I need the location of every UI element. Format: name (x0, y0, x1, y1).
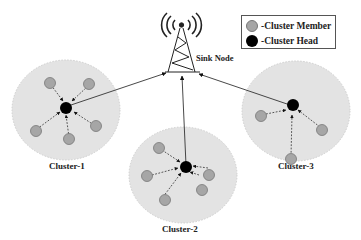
cluster-member-node (317, 125, 328, 136)
cluster-member-node (142, 171, 153, 182)
legend-item-cluster-member: -Cluster Member (246, 19, 331, 33)
cluster-head-2 (180, 161, 192, 173)
cluster-head-1 (60, 102, 72, 114)
cluster-member-node (64, 134, 75, 145)
cluster-member-node (91, 121, 102, 132)
cluster-member-node (45, 78, 56, 89)
legend: -Cluster Member -Cluster Head (241, 15, 336, 49)
cluster-member-node (256, 111, 267, 122)
cluster-head-swatch (246, 35, 258, 47)
cluster-member-node (204, 170, 215, 181)
sink-node-label: Sink Node (196, 53, 234, 63)
cluster-1-label: Cluster-1 (49, 161, 85, 171)
cluster-3-label: Cluster-3 (278, 161, 314, 171)
cluster-2-label: Cluster-2 (162, 224, 198, 234)
cluster-member-node (154, 143, 165, 154)
radio-tower-icon (162, 13, 202, 72)
cluster-member-node (197, 185, 208, 196)
wsn-cluster-diagram: Sink Node -Cluster Member -Cluster Head … (0, 0, 361, 240)
legend-item-cluster-head: -Cluster Head (246, 34, 318, 48)
legend-label: -Cluster Head (261, 36, 318, 46)
legend-label: -Cluster Member (261, 21, 331, 31)
cluster-member-node (84, 79, 95, 90)
cluster-member-swatch (246, 20, 258, 32)
cluster-member-node (160, 195, 171, 206)
cluster-head-3 (287, 99, 299, 111)
cluster-member-node (31, 126, 42, 137)
